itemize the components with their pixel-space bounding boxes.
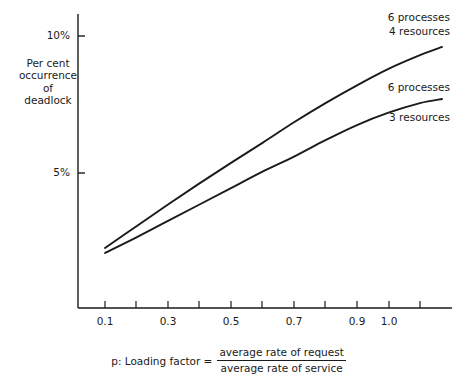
series-annotation-lower: 6 processes 3 resources	[388, 81, 450, 123]
annotation-lower-line-1: 6 processes	[388, 81, 450, 94]
series-curve-1	[105, 47, 442, 248]
x-tick-label-0-5: 0.5	[216, 315, 246, 327]
caption-fraction: average rate of request average rate of …	[217, 346, 345, 375]
x-tick-label-0-1: 0.1	[90, 315, 120, 327]
y-axis-label: Per cent occurrence of deadlock	[8, 57, 88, 107]
x-tick-marks	[105, 301, 420, 308]
x-tick-label-0-7: 0.7	[279, 315, 309, 327]
series-annotation-upper: 6 processes 4 resources	[388, 11, 450, 37]
y-axis-label-line-2: occurrence	[8, 69, 88, 81]
annotation-upper-line-2: 4 resources	[388, 25, 450, 38]
annotation-upper-line-1: 6 processes	[388, 11, 450, 24]
annotation-lower-line-2: 3 resources	[388, 111, 450, 124]
y-tick-label-5: 5%	[24, 166, 70, 178]
x-tick-label-0-3: 0.3	[153, 315, 183, 327]
y-axis-label-line-3: of	[8, 82, 88, 94]
caption-numerator: average rate of request	[217, 346, 345, 360]
x-tick-label-1: 1.0	[374, 315, 404, 327]
x-axis-caption: p: Loading factor = average rate of requ…	[0, 346, 457, 375]
y-axis-label-line-1: Per cent	[8, 57, 88, 69]
axis-lines	[78, 14, 452, 308]
y-tick-label-10: 10%	[24, 29, 70, 41]
deadlock-occurrence-chart: Per cent occurrence of deadlock 10% 5% 0…	[0, 0, 457, 388]
y-axis-label-line-4: deadlock	[8, 94, 88, 106]
caption-lead: p: Loading factor =	[111, 355, 212, 367]
caption-denominator: average rate of service	[219, 361, 345, 375]
series-curves	[105, 47, 442, 253]
x-tick-label-0-9: 0.9	[342, 315, 372, 327]
